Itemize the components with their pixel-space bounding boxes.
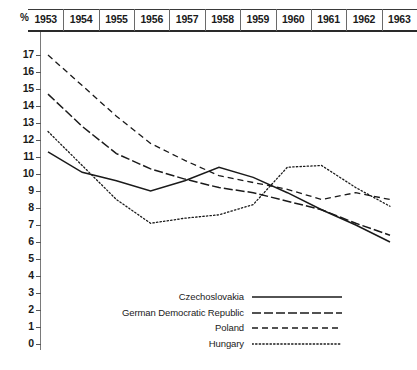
legend-label-hungary: Hungary bbox=[209, 338, 244, 349]
legend-item: Hungary bbox=[0, 338, 417, 351]
legend-label-german-democratic-republic: German Democratic Republic bbox=[122, 307, 244, 318]
series-line-german-democratic-republic bbox=[48, 94, 390, 235]
legend-label-czechoslovakia: Czechoslovakia bbox=[179, 291, 244, 302]
chart-figure: % 19531954195519561957195819591960196119… bbox=[0, 0, 417, 370]
series-line-poland bbox=[48, 55, 390, 200]
legend-key-solid bbox=[252, 291, 344, 303]
series-line-hungary bbox=[48, 132, 390, 224]
legend-item: Poland bbox=[0, 322, 417, 335]
legend-item: Czechoslovakia bbox=[0, 291, 417, 304]
legend-item: German Democratic Republic bbox=[0, 307, 417, 320]
legend-key-dotted bbox=[252, 338, 344, 350]
series-line-czechoslovakia bbox=[48, 152, 390, 242]
legend-label-poland: Poland bbox=[215, 322, 244, 333]
legend-key-dash-dot bbox=[252, 307, 344, 319]
legend-key-dashed bbox=[252, 322, 344, 334]
